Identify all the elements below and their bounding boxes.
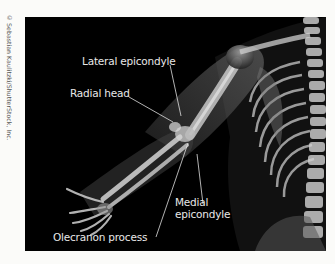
label-lateral-epicondyle: Lateral epicondyle — [82, 55, 175, 67]
anatomy-figure: Lateral epicondyle Radial head Medial ep… — [25, 17, 326, 251]
label-medial-epicondyle: Medial epicondyle — [175, 196, 230, 220]
label-radial-head: Radial head — [70, 87, 130, 99]
label-olecranon-process: Olecranon process — [53, 231, 147, 243]
label-medial-epicondyle-line2: epicondyle — [175, 208, 230, 220]
image-credit: © Sebastian Kaulitzki/ShutterStock, Inc. — [2, 14, 16, 134]
label-medial-epicondyle-line1: Medial — [175, 196, 230, 208]
